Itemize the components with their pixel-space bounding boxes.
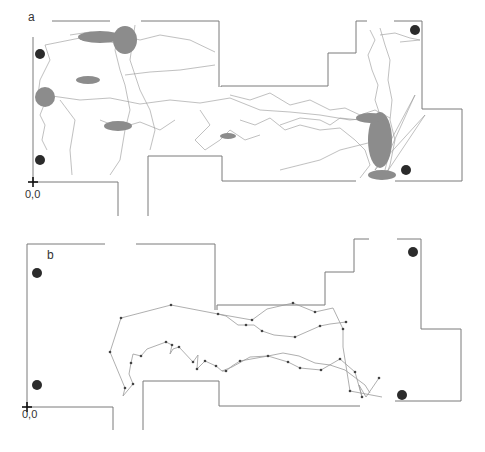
arena-b-diagram [0,225,485,452]
origin-marker-a [28,177,38,187]
origin-label-b: 0,0 [22,408,37,420]
trajectory-a [38,25,425,180]
landmark-icon [35,49,45,59]
trajectory-clusters-a [35,26,396,180]
landmark-icon [32,380,42,390]
trajectory-b [110,303,382,397]
landmarks-b [32,247,418,400]
origin-label-a: 0,0 [25,188,40,200]
arena-walls-b [27,239,461,430]
landmark-icon [397,390,407,400]
landmark-icon [408,247,418,257]
arena-a-diagram [0,0,485,225]
landmark-icon [410,25,420,35]
panel-b: b 0,0 [0,225,485,452]
trajectory-points-b [109,302,381,399]
landmark-icon [401,165,411,175]
landmark-icon [35,155,45,165]
panel-a: a 0,0 [0,0,485,225]
arena-walls-a [33,21,462,216]
panel-label-a: a [28,10,35,24]
landmarks-a [35,25,420,175]
panel-label-b: b [47,248,54,262]
landmark-icon [32,268,42,278]
